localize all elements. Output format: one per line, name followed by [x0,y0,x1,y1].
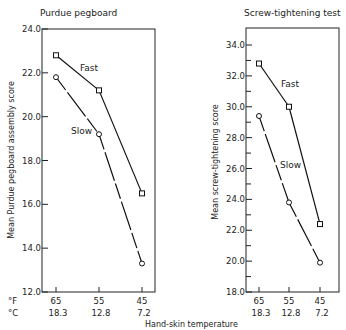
x-tick-label-c: 7.2 [315,308,329,318]
square-marker [318,222,323,227]
y-tick-label: 22.0 [226,225,245,235]
y-tick-label: 32.0 [226,71,245,81]
left-fast-label: Fast [80,63,99,73]
square-marker [97,88,102,93]
left-y-ticks: 24.022.020.018.016.014.012.0 [22,24,48,297]
y-tick-label: 14.0 [22,243,41,253]
circle-marker [287,200,292,205]
left-panel: Purdue pegboard 24.022.020.018.016.014.0… [7,8,155,318]
circle-marker [54,75,59,80]
right-y-axis-label: Mean screw-tightening score [211,104,220,219]
y-tick-label: 12.0 [22,287,41,297]
y-tick-label: 24.0 [22,24,41,34]
chart-figure: Purdue pegboard 24.022.020.018.016.014.0… [0,0,346,330]
unit-fahrenheit: °F [8,296,17,306]
y-tick-label: 18.0 [22,156,41,166]
y-tick-label: 34.0 [226,40,245,50]
square-marker [54,53,59,58]
right-panel: Screw-tightening test 34.032.030.028.026… [211,8,341,318]
right-title: Screw-tightening test [244,8,341,18]
right-slow-label: Slow [280,160,301,170]
x-tick-label-c: 18.3 [252,308,271,318]
left-series [54,53,145,266]
x-tick-label-f: 65 [254,296,265,306]
left-slow-label: Slow [71,126,92,136]
right-fast-label: Fast [281,79,300,89]
square-marker [257,61,262,66]
circle-marker [257,114,262,119]
y-tick-label: 22.0 [22,68,41,78]
y-tick-label: 20.0 [226,256,245,266]
x-tick-label-f: 65 [51,296,62,306]
x-tick-label-c: 18.3 [49,308,68,318]
x-tick-label-f: 55 [284,296,295,306]
unit-celsius: °C [8,308,18,318]
x-axis-label: Hand-skin temperature [145,320,238,329]
y-tick-label: 24.0 [226,194,245,204]
y-tick-label: 18.0 [226,287,245,297]
y-tick-label: 16.0 [22,199,41,209]
right-y-ticks: 34.032.030.028.026.024.022.020.018.0 [226,40,252,297]
y-tick-label: 20.0 [22,112,41,122]
y-tick-label: 28.0 [226,133,245,143]
square-marker [140,191,145,196]
circle-marker [97,132,102,137]
x-tick-label-c: 12.8 [92,308,111,318]
x-tick-label-f: 45 [137,296,148,306]
x-tick-label-c: 7.2 [137,308,151,318]
x-tick-label-c: 12.8 [282,308,301,318]
circle-marker [140,261,145,266]
left-y-axis-label: Mean Purdue pegboard assembly score [7,81,16,239]
left-title: Purdue pegboard [40,8,117,18]
y-tick-label: 26.0 [226,164,245,174]
x-tick-label-f: 55 [94,296,105,306]
x-tick-label-f: 45 [315,296,326,306]
y-tick-label: 30.0 [226,102,245,112]
circle-marker [318,260,323,265]
square-marker [287,104,292,109]
